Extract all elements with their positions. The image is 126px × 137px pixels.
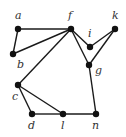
node-b [10,51,16,57]
node-label-g: g [95,64,102,77]
graph-svg: abfikgcdln [0,0,126,137]
edge-b-f [13,29,71,54]
node-label-c: c [12,90,18,103]
node-f [68,26,74,32]
node-label-d: d [28,119,35,132]
node-n [93,111,99,117]
edge-i-k [90,29,115,47]
node-a [15,26,21,32]
edge-f-c [18,29,71,85]
graph-diagram: abfikgcdln [0,0,126,137]
node-i [87,44,93,50]
node-label-n: n [92,119,99,132]
node-label-b: b [17,58,24,71]
node-label-f: f [67,9,74,22]
edge-a-b [13,29,18,54]
node-label-i: i [88,27,92,40]
edge-f-g [71,29,89,65]
node-c [15,82,21,88]
node-g [86,62,92,68]
node-label-l: l [61,119,65,132]
node-l [60,111,66,117]
node-k [112,26,118,32]
node-d [29,111,35,117]
node-label-k: k [112,9,119,22]
node-label-a: a [15,9,22,22]
